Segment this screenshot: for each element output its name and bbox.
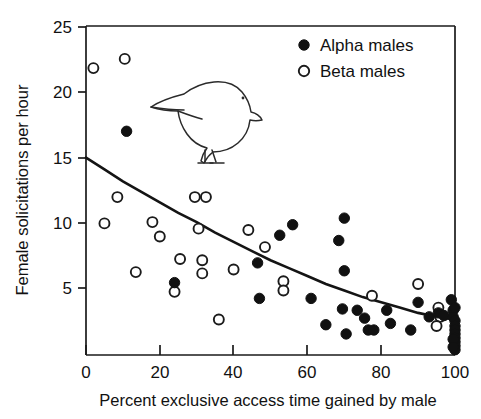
y-tick-label-5: 5: [63, 279, 72, 298]
y-tick-label-25: 25: [53, 18, 72, 37]
y-axis-title: Female solicitations per hour: [13, 84, 31, 295]
data-point: [214, 314, 224, 324]
data-point: [337, 304, 347, 314]
data-point: [339, 213, 349, 223]
data-point: [406, 325, 416, 335]
data-point: [359, 313, 369, 323]
data-point: [190, 192, 200, 202]
data-point: [448, 342, 458, 352]
data-point: [229, 264, 239, 274]
data-point: [432, 321, 442, 331]
x-tick-label-40: 40: [224, 363, 243, 382]
data-point: [201, 192, 211, 202]
legend-label-alpha: Alpha males: [320, 36, 414, 55]
data-point: [339, 266, 349, 276]
data-point: [147, 217, 157, 227]
y-tick-label-15: 15: [53, 149, 72, 168]
regression-curve: [86, 158, 455, 320]
x-axis-ticks: [86, 345, 455, 355]
data-point: [382, 305, 392, 315]
fit-curve-group: [86, 158, 455, 320]
chart-canvas: 5 10 15 20 25 0 20 40 60 80 100 Percent …: [0, 0, 481, 419]
data-point: [155, 232, 165, 242]
x-tick-label-60: 60: [298, 363, 317, 382]
y-tick-label-20: 20: [53, 83, 72, 102]
data-point: [450, 302, 460, 312]
data-point: [254, 293, 264, 303]
data-point: [341, 329, 351, 339]
data-point: [413, 297, 423, 307]
data-point: [88, 63, 98, 73]
data-point: [169, 277, 179, 287]
data-point: [197, 268, 207, 278]
data-point: [369, 325, 379, 335]
data-point: [385, 318, 395, 328]
data-point: [175, 254, 185, 264]
data-point: [194, 224, 204, 234]
data-point: [170, 287, 180, 297]
data-point: [367, 291, 377, 301]
x-tick-label-20: 20: [151, 363, 170, 382]
legend-marker-beta-icon: [299, 66, 309, 76]
x-tick-label-80: 80: [372, 363, 391, 382]
data-point: [99, 218, 109, 228]
data-point: [334, 235, 344, 245]
data-point: [287, 220, 297, 230]
legend-marker-alpha-icon: [299, 40, 309, 50]
x-axis-tick-labels: 0 20 40 60 80 100: [81, 363, 469, 382]
y-tick-label-10: 10: [53, 214, 72, 233]
data-point: [439, 310, 449, 320]
data-point: [197, 255, 207, 265]
y-axis-tick-labels: 5 10 15 20 25: [53, 18, 72, 298]
x-axis-title: Percent exclusive access time gained by …: [99, 391, 437, 409]
scatter-plot-figure: 5 10 15 20 25 0 20 40 60 80 100 Percent …: [0, 0, 481, 419]
data-point: [306, 293, 316, 303]
data-point: [120, 54, 130, 64]
data-point: [275, 230, 285, 240]
data-point: [112, 192, 122, 202]
data-point: [321, 320, 331, 330]
data-point: [260, 242, 270, 252]
x-tick-label-100: 100: [441, 363, 469, 382]
data-point: [413, 279, 423, 289]
alpha-males-series: [121, 126, 460, 355]
data-point: [252, 258, 262, 268]
data-point: [243, 225, 253, 235]
chart-legend: Alpha males Beta males: [299, 36, 414, 81]
bird-drawing-icon: [151, 82, 262, 163]
x-tick-label-0: 0: [81, 363, 90, 382]
legend-label-beta: Beta males: [320, 62, 405, 81]
data-point: [121, 126, 131, 136]
data-point: [278, 286, 288, 296]
data-point: [131, 267, 141, 277]
